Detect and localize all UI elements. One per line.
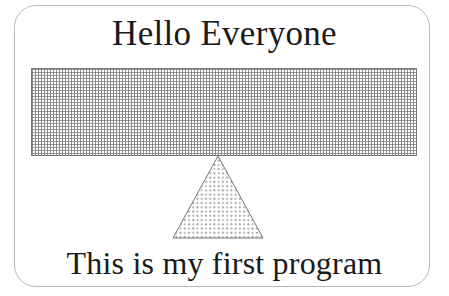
- page-title: Hello Everyone: [0, 13, 449, 55]
- fulcrum-triangle-svg: [172, 155, 264, 239]
- fulcrum-triangle-shape: [173, 156, 263, 238]
- seesaw-beam-rectangle: [31, 68, 417, 156]
- fulcrum-triangle: [172, 155, 264, 239]
- figure-caption: This is my first program: [0, 243, 449, 283]
- figure-canvas: Hello Everyone This is my first program: [0, 0, 449, 296]
